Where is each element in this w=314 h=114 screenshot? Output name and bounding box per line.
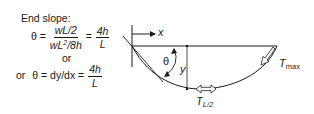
t-max-label: Tmax [279,58,300,71]
y-dimension-label: y [180,64,186,75]
t-max-main: T [279,57,286,69]
t-half-subscript: L/2 [203,100,213,109]
t-half-main: T [196,95,203,107]
t-half-label: TL/2 [196,96,213,109]
tangent-line [123,36,163,82]
t-max-subscript: max [286,62,300,71]
theta-arrowhead-top [171,48,177,54]
cable-curve [132,46,277,89]
y-dimension-bottom-dot [186,88,188,90]
theta-label: θ [163,56,169,67]
x-axis-label: x [158,27,164,38]
t-max-arrow [261,47,275,65]
cable-diagram [0,0,314,114]
y-dimension-top-dot [186,45,188,47]
t-half-double-arrow [196,85,216,93]
